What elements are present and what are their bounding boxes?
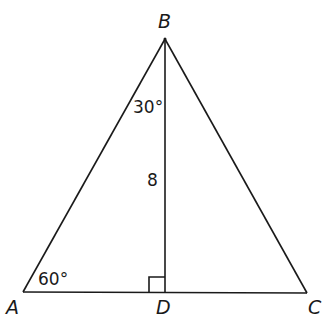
vertex-label-a: A [4,296,19,318]
segment-bc [165,39,307,293]
vertex-b-point [164,38,167,41]
length-label-bd: 8 [147,170,158,190]
vertex-label-d: D [156,296,171,318]
segment-ab [23,39,165,292]
triangle-diagram: B A D C 30° 60° 8 [0,0,334,322]
vertex-label-c: C [308,296,322,318]
angle-label-bad: 60° [38,269,68,289]
right-angle-marker [149,277,165,293]
vertex-label-b: B [158,10,171,32]
angle-label-abd: 30° [133,97,163,117]
